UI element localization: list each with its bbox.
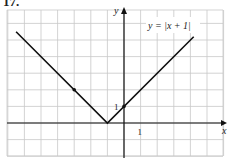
function-curve xyxy=(16,32,194,123)
y-axis-arrow-icon xyxy=(121,7,127,14)
x-axis-label: x xyxy=(221,125,227,136)
y-axis-label: y xyxy=(113,5,119,16)
marked-point xyxy=(72,88,76,92)
x-tick-label: 1 xyxy=(138,127,143,137)
y-tick-label: 1 xyxy=(114,102,119,112)
marked-point xyxy=(122,105,126,109)
function-label: y = |x + 1| xyxy=(147,20,191,31)
graph-plot: xy11y = |x + 1| xyxy=(0,0,228,164)
